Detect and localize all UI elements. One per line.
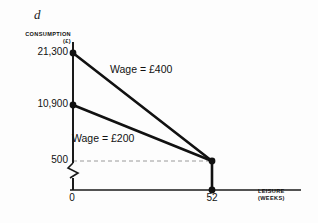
point-52-500 xyxy=(209,158,216,165)
y-axis-title-line1: CONSUMPTION xyxy=(17,31,71,38)
point-10900 xyxy=(70,102,77,109)
y-axis-title-line2: (£) xyxy=(17,38,71,45)
x-axis-title-line1: LEISURE xyxy=(258,188,314,195)
x-axis-title-line2: (WEEKS) xyxy=(258,195,314,202)
x-tick-label-52: 52 xyxy=(200,192,224,203)
y-tick-label-10900: 10,900 xyxy=(4,98,68,109)
series-label-wage-200: Wage = £200 xyxy=(72,132,134,144)
y-tick-label-500: 500 xyxy=(4,154,68,165)
y-axis-break-symbol xyxy=(68,163,78,178)
point-21300 xyxy=(70,50,77,57)
series-label-wage-400: Wage = £400 xyxy=(110,63,172,75)
figure-panel-d: d CONSUMPTION (£) LEISURE (WEEKS) 21, xyxy=(0,0,318,223)
y-axis-title: CONSUMPTION (£) xyxy=(17,31,71,45)
x-axis-title: LEISURE (WEEKS) xyxy=(258,188,314,202)
x-tick-label-0: 0 xyxy=(60,192,84,203)
y-tick-label-21300: 21,300 xyxy=(4,46,68,57)
